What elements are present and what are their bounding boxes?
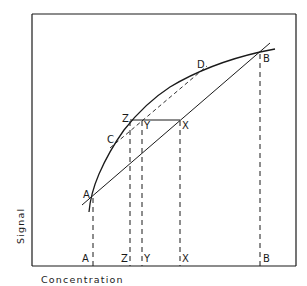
point-label-b: B [263, 53, 270, 64]
axis-label-z: Z [121, 253, 128, 264]
calibration-diagram: A B C D Z Y X A Z Y X B Concentration Si… [0, 0, 307, 286]
point-label-c: C [107, 134, 114, 145]
point-label-a: A [83, 189, 90, 200]
axis-label-x: X [182, 253, 189, 264]
x-axis-title: Concentration [41, 274, 124, 285]
point-label-x: X [182, 120, 189, 131]
plot-frame [32, 14, 296, 266]
y-axis-title: Signal [15, 208, 26, 244]
axis-label-y: Y [143, 253, 151, 264]
dashed-line-cd [110, 66, 207, 148]
axis-label-a: A [82, 253, 89, 264]
chord-line-ab [82, 43, 270, 205]
point-label-z: Z [122, 113, 129, 124]
point-label-d: D [197, 59, 205, 70]
axis-label-b: B [263, 253, 270, 264]
drop-lines [93, 54, 260, 266]
point-label-y: Y [143, 120, 151, 131]
